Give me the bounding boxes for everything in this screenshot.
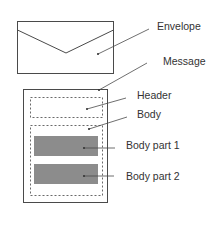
body-part-1-label: Body part 1 <box>126 139 180 151</box>
header-pointer <box>87 98 126 109</box>
body-part-2-box <box>34 164 98 184</box>
header-label: Header <box>137 89 172 101</box>
email-structure-diagram: Envelope Message Header Body Body part 1… <box>0 0 216 229</box>
body-part-1-box <box>34 136 98 156</box>
message-pointer <box>99 63 147 90</box>
body-part-2-label: Body part 2 <box>126 170 180 182</box>
envelope-pointer <box>98 29 149 54</box>
body-label: Body <box>137 108 162 120</box>
envelope-icon <box>18 22 114 74</box>
message-label: Message <box>163 55 206 67</box>
envelope-label: Envelope <box>157 20 201 32</box>
